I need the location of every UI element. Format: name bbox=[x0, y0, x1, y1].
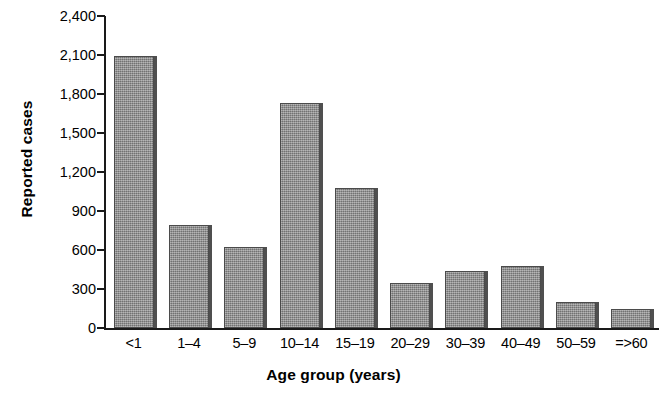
bar-slot bbox=[548, 16, 603, 328]
y-tick-label: 300 bbox=[16, 282, 96, 296]
x-tick-slot: 10–14 bbox=[272, 334, 327, 352]
x-tick-slot: 1–4 bbox=[161, 334, 216, 352]
y-axis-tickmark bbox=[97, 93, 105, 95]
x-tick-label: 20–29 bbox=[390, 335, 429, 351]
x-tick-label: 1–4 bbox=[177, 335, 201, 351]
x-tick-slot: 50–59 bbox=[548, 334, 603, 352]
bar-slot bbox=[106, 16, 161, 328]
x-tick-slot: 5–9 bbox=[217, 334, 272, 352]
y-tick-label: 2,100 bbox=[16, 48, 96, 62]
bar-chart-figure: Reported cases 2,400 2,100 1,800 1,500 1… bbox=[0, 0, 667, 398]
bar-slot bbox=[382, 16, 437, 328]
x-tick-slot: 40–49 bbox=[493, 334, 548, 352]
y-tick-label: 2,400 bbox=[16, 9, 96, 23]
x-tick-slot: 30–39 bbox=[438, 334, 493, 352]
y-axis-tickmark bbox=[97, 54, 105, 56]
bar bbox=[501, 266, 541, 328]
y-axis-tickmark bbox=[97, 171, 105, 173]
y-axis-tickmark bbox=[97, 15, 105, 17]
x-axis-tick-labels: <11–45–910–1415–1920–2930–3940–4950–59=>… bbox=[106, 334, 659, 352]
y-axis-tickmark bbox=[97, 327, 105, 329]
y-axis-tickmark bbox=[97, 132, 105, 134]
bar bbox=[390, 283, 430, 329]
x-tick-label: 50–59 bbox=[556, 335, 595, 351]
bar bbox=[224, 247, 264, 328]
bar bbox=[335, 188, 375, 328]
x-tick-label: <1 bbox=[126, 335, 142, 351]
bar-series bbox=[106, 16, 659, 328]
bar-slot bbox=[161, 16, 216, 328]
x-tick-slot: 15–19 bbox=[327, 334, 382, 352]
x-tick-label: 10–14 bbox=[280, 335, 319, 351]
y-axis-tickmark bbox=[97, 288, 105, 290]
y-tick-label: 600 bbox=[16, 243, 96, 257]
x-tick-label: 40–49 bbox=[501, 335, 540, 351]
y-tick-label: 0 bbox=[16, 321, 96, 335]
y-axis-tickmark bbox=[97, 249, 105, 251]
x-tick-label: 15–19 bbox=[335, 335, 374, 351]
x-tick-slot: 20–29 bbox=[382, 334, 437, 352]
y-tick-label: 1,500 bbox=[16, 126, 96, 140]
bar bbox=[280, 103, 320, 328]
x-tick-label: =>60 bbox=[615, 335, 647, 351]
bar bbox=[114, 56, 154, 328]
x-tick-label: 5–9 bbox=[232, 335, 256, 351]
bar bbox=[169, 225, 209, 328]
plot-area bbox=[104, 16, 659, 328]
y-tick-label: 1,800 bbox=[16, 87, 96, 101]
x-tick-label: 30–39 bbox=[446, 335, 485, 351]
bar-slot bbox=[272, 16, 327, 328]
bar bbox=[611, 309, 651, 329]
bar-slot bbox=[327, 16, 382, 328]
bar bbox=[445, 271, 485, 328]
bar-slot bbox=[493, 16, 548, 328]
y-axis-tickmark bbox=[97, 210, 105, 212]
y-tick-label: 900 bbox=[16, 204, 96, 218]
y-tick-label: 1,200 bbox=[16, 165, 96, 179]
x-axis-title: Age group (years) bbox=[0, 366, 667, 384]
x-tick-slot: <1 bbox=[106, 334, 161, 352]
bar-slot bbox=[604, 16, 659, 328]
y-axis-tick-labels: 2,400 2,100 1,800 1,500 1,200 900 600 30… bbox=[16, 0, 96, 398]
bar-slot bbox=[438, 16, 493, 328]
bar bbox=[556, 302, 596, 328]
x-axis-line bbox=[104, 328, 659, 330]
bar-slot bbox=[217, 16, 272, 328]
x-tick-slot: =>60 bbox=[604, 334, 659, 352]
